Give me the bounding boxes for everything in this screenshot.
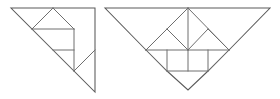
tangram-svg xyxy=(0,0,280,99)
left-internal-line-2 xyxy=(53,8,74,29)
left-figure-internal-lines xyxy=(32,8,95,71)
left-internal-line-8 xyxy=(74,50,95,71)
left-triangle-figure xyxy=(11,8,95,92)
right-internal-line-11 xyxy=(188,29,208,50)
right-internal-line-5 xyxy=(208,29,229,50)
right-bat-figure xyxy=(105,8,270,90)
right-internal-line-9 xyxy=(208,50,229,71)
right-internal-line-8 xyxy=(146,50,167,71)
left-internal-line-7 xyxy=(53,50,74,71)
right-internal-line-4 xyxy=(146,29,167,50)
tangram-figure-canvas xyxy=(0,0,280,99)
right-figure-internal-lines xyxy=(146,8,229,71)
left-internal-line-1 xyxy=(32,8,53,29)
right-internal-line-10 xyxy=(167,29,188,50)
left-internal-line-4 xyxy=(32,29,53,50)
